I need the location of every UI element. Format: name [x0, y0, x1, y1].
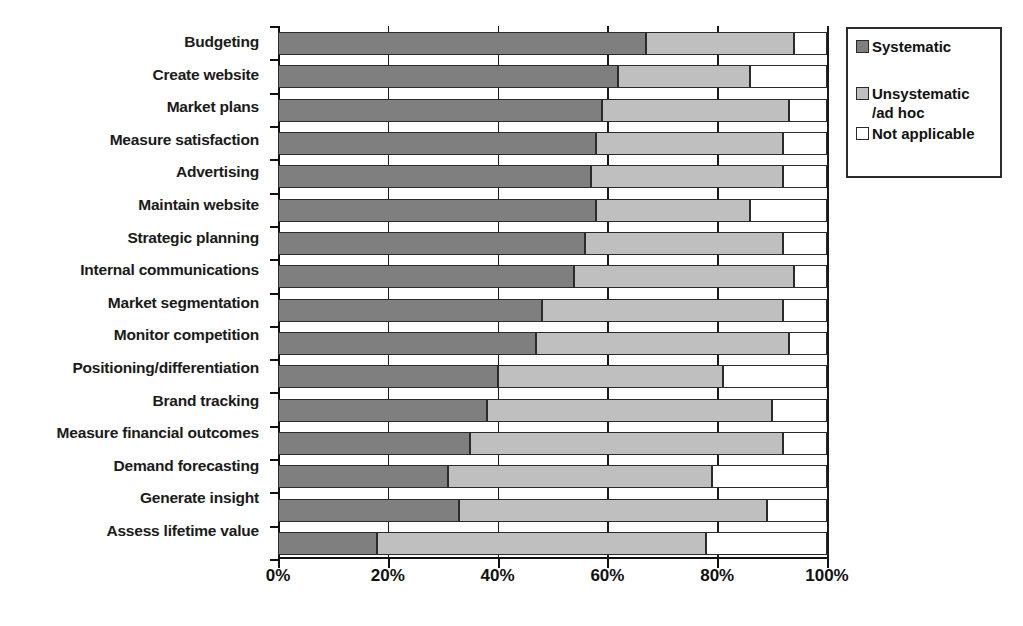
bar-segment	[448, 465, 712, 488]
bar-segment	[789, 99, 827, 122]
bar-segment	[278, 432, 470, 455]
bar-row	[278, 299, 827, 322]
category-label: Demand forecasting	[0, 450, 268, 483]
bar-segment	[783, 232, 827, 255]
x-axis-label: 0%	[266, 566, 291, 586]
bar-segment	[487, 399, 772, 422]
category-axis: BudgetingCreate websiteMarket plansMeasu…	[0, 26, 268, 548]
bar-segment	[646, 32, 794, 55]
bar-segment	[278, 65, 618, 88]
bar-segment	[536, 332, 789, 355]
bar-segment	[278, 399, 487, 422]
bar-segment	[596, 199, 750, 222]
bar-segment	[723, 365, 827, 388]
legend-label-systematic: Systematic	[872, 37, 951, 56]
gridline	[827, 26, 829, 559]
legend-swatch-not-applicable	[856, 127, 869, 140]
legend-swatch-unsystematic	[856, 87, 869, 100]
bar-segment	[602, 99, 789, 122]
bar-segment	[574, 265, 794, 288]
legend-item-systematic: Systematic	[856, 37, 994, 56]
category-label: Market segmentation	[0, 287, 268, 320]
bar-segment	[278, 199, 596, 222]
bar-segment	[750, 199, 827, 222]
bar-segment	[459, 499, 766, 522]
legend-label-unsystematic: Unsystematic /ad hoc	[872, 84, 970, 122]
category-label: Budgeting	[0, 26, 268, 59]
bar-segment	[278, 132, 596, 155]
bar-segment	[278, 265, 574, 288]
bar-row	[278, 265, 827, 288]
bar-segment	[772, 399, 827, 422]
bar-row	[278, 432, 827, 455]
bar-segment	[794, 32, 827, 55]
bar-segment	[767, 499, 827, 522]
legend-item-not-applicable: Not applicable	[856, 124, 994, 143]
stacked-bar-chart: BudgetingCreate websiteMarket plansMeasu…	[0, 0, 1023, 626]
bar-series-layer	[278, 26, 827, 559]
bar-segment	[750, 65, 827, 88]
bar-segment	[278, 232, 585, 255]
bar-segment	[377, 532, 706, 555]
bar-segment	[278, 499, 459, 522]
x-axis-labels: 0%20%40%60%80%100%	[278, 566, 827, 596]
legend: Systematic Unsystematic /ad hoc Not appl…	[846, 27, 1002, 178]
bar-segment	[278, 465, 448, 488]
bar-row	[278, 199, 827, 222]
legend-item-unsystematic: Unsystematic /ad hoc	[856, 84, 994, 122]
bar-segment	[783, 432, 827, 455]
bar-segment	[706, 532, 827, 555]
category-label: Create website	[0, 59, 268, 92]
category-label: Advertising	[0, 156, 268, 189]
bar-segment	[712, 465, 827, 488]
category-label: Positioning/differentiation	[0, 352, 268, 385]
category-label: Generate insight	[0, 482, 268, 515]
bar-segment	[278, 99, 602, 122]
category-label: Brand tracking	[0, 385, 268, 418]
category-label: Market plans	[0, 91, 268, 124]
legend-label-not-applicable: Not applicable	[872, 124, 975, 143]
bar-segment	[591, 165, 783, 188]
plot-area	[278, 26, 827, 559]
bar-row	[278, 32, 827, 55]
bar-row	[278, 399, 827, 422]
bar-segment	[470, 432, 783, 455]
bar-row	[278, 499, 827, 522]
bar-segment	[498, 365, 723, 388]
x-axis-label: 20%	[371, 566, 405, 586]
bar-segment	[585, 232, 783, 255]
category-label: Measure satisfaction	[0, 124, 268, 157]
bar-row	[278, 465, 827, 488]
category-label: Assess lifetime value	[0, 515, 268, 548]
bar-segment	[278, 332, 536, 355]
bar-segment	[278, 165, 591, 188]
legend-swatch-systematic	[856, 40, 869, 53]
bar-row	[278, 532, 827, 555]
bar-segment	[783, 132, 827, 155]
category-label: Internal communications	[0, 254, 268, 287]
x-axis-label: 100%	[805, 566, 848, 586]
bar-row	[278, 332, 827, 355]
category-label: Maintain website	[0, 189, 268, 222]
category-label: Measure financial outcomes	[0, 417, 268, 450]
bar-segment	[278, 365, 498, 388]
bar-segment	[278, 32, 646, 55]
bar-segment	[789, 332, 827, 355]
x-axis-label: 40%	[481, 566, 515, 586]
bar-row	[278, 65, 827, 88]
category-label: Monitor competition	[0, 319, 268, 352]
bar-row	[278, 132, 827, 155]
bar-segment	[596, 132, 783, 155]
bar-row	[278, 365, 827, 388]
bar-segment	[794, 265, 827, 288]
y-axis-tick	[270, 559, 279, 561]
x-axis-label: 80%	[700, 566, 734, 586]
bar-segment	[278, 299, 542, 322]
bar-segment	[542, 299, 784, 322]
bar-segment	[783, 299, 827, 322]
bar-row	[278, 165, 827, 188]
bar-segment	[783, 165, 827, 188]
bar-segment	[618, 65, 750, 88]
category-label: Strategic planning	[0, 222, 268, 255]
x-axis-label: 60%	[590, 566, 624, 586]
